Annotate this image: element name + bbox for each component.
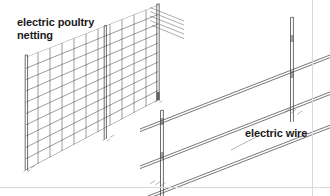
diagram-canvas: .w { stroke:#3c3c3c; stroke-width:0.7; f… bbox=[0, 0, 330, 196]
frame-right-rule bbox=[312, 0, 313, 196]
wire-fence-post-near bbox=[150, 110, 166, 196]
netting-post-left bbox=[24, 55, 31, 172]
label-electric-poultry-netting: electric poultrynetting bbox=[17, 16, 94, 42]
wire-strand-1 bbox=[140, 55, 330, 132]
label-netting-line1: electric poultry bbox=[17, 16, 94, 28]
label-netting-line2: netting bbox=[17, 29, 53, 41]
netting-post-middle bbox=[103, 25, 110, 141]
ground-ticks bbox=[31, 135, 114, 168]
frame-bottom-rule bbox=[0, 187, 330, 188]
label-electric-wire: electric wire bbox=[245, 127, 307, 140]
netting-trailing-strands bbox=[150, 8, 184, 39]
electric-wire-fence-group bbox=[140, 17, 330, 196]
